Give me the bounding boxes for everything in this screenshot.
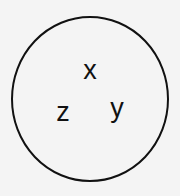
label-z: z bbox=[56, 97, 70, 127]
label-x: x bbox=[83, 55, 97, 85]
set-circle bbox=[12, 17, 168, 181]
label-y: y bbox=[110, 93, 124, 123]
set-diagram: x z y bbox=[0, 0, 180, 196]
